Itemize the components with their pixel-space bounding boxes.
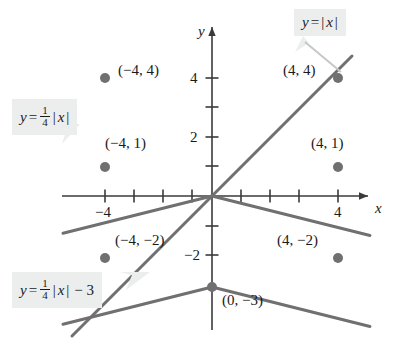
- callout-equation-quarter-abs-x-minus-3: y = 1 4 | x | − 3: [12, 272, 102, 308]
- point-label-4-4: (4, 4): [283, 63, 316, 78]
- point-0-neg3: [207, 282, 217, 292]
- callout-quarter-equals: =: [29, 110, 37, 125]
- callout-abs-x-variable: x: [326, 15, 333, 30]
- callout-shifted-bar-close: |: [66, 283, 69, 298]
- callout-abs-x-bar-open: |: [321, 15, 324, 30]
- x-axis-name: x: [375, 201, 382, 216]
- point-4-4: [333, 73, 343, 83]
- point-label-neg4-4: (−4, 4): [118, 63, 159, 78]
- callout-shifted-bar-open: |: [53, 283, 56, 298]
- callout-shifted-variable: x: [58, 283, 65, 298]
- point-neg4-neg2: [100, 253, 110, 263]
- point-label-neg4-1: (−4, 1): [105, 136, 146, 151]
- callout-shifted-equals: =: [29, 283, 37, 298]
- x-axis-label--4: −4: [95, 205, 111, 220]
- callout-quarter-bar-close: |: [66, 110, 69, 125]
- callout-abs-x-equals: =: [311, 15, 319, 30]
- callout-shifted-denominator: 4: [40, 289, 50, 302]
- callout-quarter-fraction: 1 4: [40, 105, 50, 129]
- x-axis-label-4: 4: [334, 205, 342, 220]
- point-label-0-neg3: (0, −3): [222, 293, 263, 308]
- y-axis-label-4: 4: [190, 71, 198, 86]
- point-label-neg4-neg2: (−4, −2): [115, 233, 164, 248]
- callout-abs-x-bar-close: |: [335, 15, 338, 30]
- callout-shifted-lhs: y: [20, 283, 27, 298]
- callout-quarter-variable: x: [58, 110, 65, 125]
- y-axis-label-2: 2: [190, 130, 198, 145]
- callout-quarter-numerator: 1: [40, 105, 50, 117]
- callout-shifted-numerator: 1: [40, 278, 50, 290]
- callout-quarter-bar-open: |: [53, 110, 56, 125]
- callout-quarter-lhs: y: [20, 110, 27, 125]
- callout-shifted-fraction: 1 4: [40, 278, 50, 302]
- point-4-neg2: [333, 253, 343, 263]
- point-label-4-1: (4, 1): [311, 136, 344, 151]
- callout-equation-abs-x: y = | x |: [294, 9, 346, 36]
- y-axis-label--2: −2: [184, 248, 200, 263]
- point-neg4-4: [100, 73, 110, 83]
- y-axis-name: y: [198, 24, 205, 39]
- callout-quarter-denominator: 4: [40, 116, 50, 129]
- point-label-4-neg2: (4, −2): [277, 233, 318, 248]
- callout-abs-x-lhs: y: [302, 15, 309, 30]
- callout-shifted-suffix: − 3: [74, 283, 94, 298]
- point-4-1: [333, 162, 343, 172]
- absolute-value-graph-figure: y = | x | y = 1 4 | x | y = 1 4: [0, 0, 397, 341]
- callout-equation-quarter-abs-x: y = 1 4 | x |: [12, 99, 77, 135]
- curve-quarter-abs-x-minus-3: [63, 287, 370, 327]
- point-neg4-1: [100, 162, 110, 172]
